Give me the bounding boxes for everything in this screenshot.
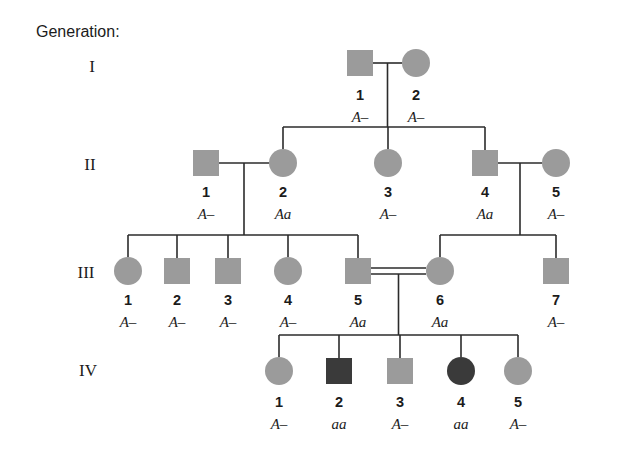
individual-genotype-iii-6: Aa xyxy=(431,314,449,330)
generation-label-i: I xyxy=(89,57,95,76)
individual-genotype-ii-4: Aa xyxy=(476,206,494,222)
individual-symbol-iii-6[interactable] xyxy=(426,257,454,285)
individual-genotype-iii-5: Aa xyxy=(349,314,367,330)
individual-genotype-iii-2: A– xyxy=(168,314,186,330)
generation-label-ii: II xyxy=(84,155,96,174)
individual-number-ii-2: 2 xyxy=(279,184,287,200)
individual-number-iii-4: 4 xyxy=(284,292,292,308)
individual-symbol-ii-3[interactable] xyxy=(374,149,402,177)
individual-genotype-iii-4: A– xyxy=(279,314,297,330)
individual-genotype-ii-3: A– xyxy=(379,206,397,222)
individual-symbol-iv-4[interactable] xyxy=(447,357,475,385)
individual-genotype-iii-7: A– xyxy=(547,314,565,330)
individual-number-iv-4: 4 xyxy=(457,394,465,410)
pedigree-chart: Generation: I1A–2A–II1A–2Aa3A–4Aa5A–III1… xyxy=(0,0,630,462)
individual-symbol-ii-2[interactable] xyxy=(269,149,297,177)
individual-number-i-2: 2 xyxy=(412,87,420,103)
individual-number-iii-7: 7 xyxy=(552,292,560,308)
individual-number-iv-1: 1 xyxy=(275,394,283,410)
individual-genotype-iv-1: A– xyxy=(270,416,288,432)
individual-genotype-iv-3: A– xyxy=(391,416,409,432)
individual-symbol-iii-5[interactable] xyxy=(345,258,371,284)
individual-symbol-iv-3[interactable] xyxy=(387,358,413,384)
generation-label-iv: IV xyxy=(79,361,98,380)
individual-symbol-iii-1[interactable] xyxy=(114,257,142,285)
individual-number-iv-5: 5 xyxy=(514,394,522,410)
individual-number-ii-1: 1 xyxy=(202,184,210,200)
individual-number-iv-2: 2 xyxy=(335,394,343,410)
individual-symbol-i-2[interactable] xyxy=(402,49,430,77)
individual-symbol-ii-4[interactable] xyxy=(472,150,498,176)
individual-genotype-iii-1: A– xyxy=(119,314,137,330)
individual-genotype-i-2: A– xyxy=(407,109,425,125)
individual-genotype-iii-3: A– xyxy=(219,314,237,330)
individual-symbol-i-1[interactable] xyxy=(347,50,373,76)
individual-number-ii-4: 4 xyxy=(481,184,489,200)
generation-label-iii: III xyxy=(78,263,95,282)
individual-symbol-iv-1[interactable] xyxy=(265,357,293,385)
individual-symbol-iv-2[interactable] xyxy=(326,358,352,384)
individual-genotype-iv-2: aa xyxy=(332,416,347,432)
individual-genotype-ii-5: A– xyxy=(547,206,565,222)
individual-symbol-iii-3[interactable] xyxy=(215,258,241,284)
individual-number-ii-3: 3 xyxy=(384,184,392,200)
individual-genotype-iv-4: aa xyxy=(454,416,469,432)
pedigree-svg-canvas: Generation: I1A–2A–II1A–2Aa3A–4Aa5A–III1… xyxy=(0,0,630,462)
individual-symbol-ii-5[interactable] xyxy=(542,149,570,177)
individual-genotype-ii-1: A– xyxy=(197,206,215,222)
individual-number-iii-2: 2 xyxy=(173,292,181,308)
individual-symbol-iii-7[interactable] xyxy=(543,258,569,284)
individual-number-iii-3: 3 xyxy=(224,292,232,308)
individual-genotype-iv-5: A– xyxy=(509,416,527,432)
individual-genotype-ii-2: Aa xyxy=(274,206,292,222)
individual-number-iii-1: 1 xyxy=(124,292,132,308)
individual-genotype-i-1: A– xyxy=(351,109,369,125)
individual-symbol-iv-5[interactable] xyxy=(504,357,532,385)
individual-number-iii-6: 6 xyxy=(436,292,444,308)
individual-number-ii-5: 5 xyxy=(552,184,560,200)
individual-symbol-ii-1[interactable] xyxy=(193,150,219,176)
generation-header-label: Generation: xyxy=(36,23,120,40)
individual-number-iv-3: 3 xyxy=(396,394,404,410)
individual-symbol-iii-2[interactable] xyxy=(164,258,190,284)
individual-symbol-iii-4[interactable] xyxy=(274,257,302,285)
individual-number-i-1: 1 xyxy=(356,87,364,103)
individual-number-iii-5: 5 xyxy=(354,292,362,308)
